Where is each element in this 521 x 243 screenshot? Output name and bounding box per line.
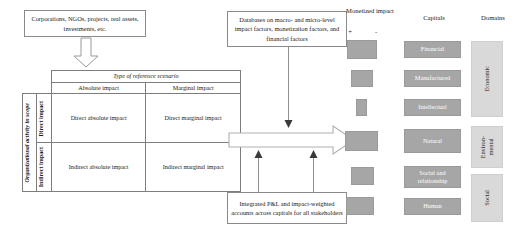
domains-header-text: Domains xyxy=(481,14,505,21)
matrix-subheader-row: Absolute impact Marginal impact xyxy=(23,82,241,94)
matrix-cell-indirect-absolute: Indirect absolute impact xyxy=(51,143,146,192)
domain-social: Social xyxy=(471,174,503,222)
monetized-bar-natural xyxy=(345,131,378,151)
matrix-cell-indirect-marginal: Indirect marginal impact xyxy=(146,143,241,192)
domain-economic-label: Economic xyxy=(483,66,491,92)
sign-positive-text: + xyxy=(348,28,352,35)
integrated-connector-arrowhead-right xyxy=(309,150,318,159)
capital-human-label: Human xyxy=(423,202,442,210)
matrix-scenario-header: Type of reference scenario xyxy=(51,71,240,83)
matrix-row-group-label: Organizational activity in scope xyxy=(23,94,37,192)
monetized-bar-human xyxy=(346,197,374,215)
matrix-row-indirect: Indirect impact Indirect absolute impact… xyxy=(23,143,241,192)
capital-natural: Natural xyxy=(404,129,461,153)
matrix-top-header-row: Type of reference scenario xyxy=(23,71,241,83)
capital-financial-label: Financial xyxy=(421,45,444,53)
matrix-col-marginal: Marginal impact xyxy=(146,82,241,94)
entities-to-matrix-arrow xyxy=(72,38,100,68)
capital-intellectual-label: Intellectual xyxy=(418,103,446,111)
matrix-row-direct: Organizational activity in scope Direct … xyxy=(23,94,241,143)
integrated-connector-line-left xyxy=(258,156,259,192)
databases-box: Databases on macro- and micro-level impa… xyxy=(227,11,347,47)
capitals-header: Capitals xyxy=(404,14,464,23)
integrated-accounts-box: Integrated P&L and impact-weighted accou… xyxy=(227,192,347,224)
monetized-bar-intellectual xyxy=(356,99,367,116)
domains-header: Domains xyxy=(468,14,518,23)
integrated-accounts-text: Integrated P&L and impact-weighted accou… xyxy=(231,199,343,218)
matrix-rowhdr-indirect-text: Indirect impact xyxy=(38,147,46,187)
entities-box: Corporations, NGOs, projects, real asset… xyxy=(24,10,146,37)
capital-social-and-relationship: Social and relationship xyxy=(404,166,461,188)
matrix-rowhdr-indirect: Indirect impact xyxy=(36,143,51,192)
matrix-rowhdr-direct-text: Direct impact xyxy=(38,101,46,137)
capital-natural-label: Natural xyxy=(423,137,442,145)
capital-manufactured-label: Manufactured xyxy=(415,74,450,82)
sign-negative-text: - xyxy=(375,28,377,35)
entities-box-text: Corporations, NGOs, projects, real asset… xyxy=(28,14,142,33)
capital-financial: Financial xyxy=(404,41,461,58)
matrix-rowhdr-direct: Direct impact xyxy=(36,94,51,143)
domain-economic: Economic xyxy=(471,41,503,117)
impact-matrix: Type of reference scenario Absolute impa… xyxy=(22,70,241,192)
sign-negative: - xyxy=(370,28,382,35)
databases-connector-line xyxy=(288,47,289,125)
databases-box-text: Databases on macro- and micro-level impa… xyxy=(231,15,343,43)
domain-environmental-label: Environ- mental xyxy=(479,136,494,158)
monetized-impact-header: Monetized impact xyxy=(344,7,396,16)
capital-manufactured: Manufactured xyxy=(404,70,461,87)
integrated-connector-arrowhead-left xyxy=(254,150,263,159)
process-flow-arrow xyxy=(229,125,355,155)
matrix-cell-direct-marginal: Direct marginal impact xyxy=(146,94,241,143)
matrix-row-group-text: Organizational activity in scope xyxy=(24,103,32,182)
diagram-canvas: Corporations, NGOs, projects, real asset… xyxy=(0,0,521,243)
monetized-bar-social-and-relationship xyxy=(351,167,374,185)
capitals-header-text: Capitals xyxy=(423,14,445,21)
capital-social-and-relationship-label: Social and relationship xyxy=(405,169,460,185)
domain-environmental: Environ- mental xyxy=(471,126,503,168)
matrix-cell-direct-absolute: Direct absolute impact xyxy=(51,94,146,143)
domain-social-label: Social xyxy=(483,190,491,206)
capital-human: Human xyxy=(404,198,461,215)
monetized-bar-financial xyxy=(347,40,377,59)
sign-positive: + xyxy=(344,28,356,35)
integrated-connector-line-right xyxy=(313,156,314,192)
monetized-impact-header-text: Monetized impact xyxy=(346,7,394,14)
matrix-col-absolute: Absolute impact xyxy=(51,82,146,94)
capital-intellectual: Intellectual xyxy=(404,99,461,116)
monetized-bar-manufactured xyxy=(351,70,373,87)
